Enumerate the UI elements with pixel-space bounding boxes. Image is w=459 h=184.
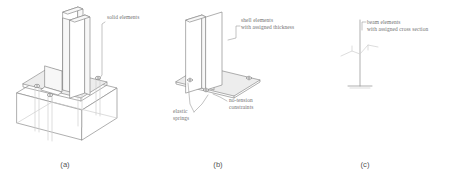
fixed-base-support bbox=[348, 86, 372, 88]
shell-flange-near bbox=[206, 12, 222, 90]
annotation-elastic-springs: elastic springs bbox=[173, 108, 189, 122]
cross-section-glyph bbox=[341, 45, 378, 56]
annotation-solid-elements: solid elements bbox=[107, 14, 139, 21]
beam-elements-leader bbox=[362, 22, 366, 30]
anchor-bolt bbox=[47, 93, 52, 96]
annotation-shell-elements: shell elements with assigned thickness bbox=[241, 17, 294, 31]
caption-b: (b) bbox=[198, 160, 238, 169]
figure-three-modelling-approaches: solid elements (a) bbox=[0, 0, 459, 184]
caption-c: (c) bbox=[345, 160, 385, 169]
panel-a-solid-elements: solid elements (a) bbox=[0, 0, 160, 184]
shell-web bbox=[202, 15, 206, 90]
solid-elements-leader bbox=[99, 22, 105, 79]
panel-a-drawing bbox=[0, 0, 160, 184]
annotation-beam-elements: beam elements with assigned cross sectio… bbox=[367, 19, 428, 33]
anchor-bolt bbox=[34, 84, 39, 87]
annotation-no-tension-constraints: no-tension constraints bbox=[229, 97, 253, 111]
panel-c-beam-elements: beam elements with assigned cross sectio… bbox=[300, 0, 459, 184]
column-solid bbox=[63, 7, 90, 98]
shell-elements-leader bbox=[228, 26, 240, 40]
panel-b-shell-elements: shell elements with assigned thickness n… bbox=[150, 0, 310, 184]
no-tension-leader bbox=[213, 94, 227, 101]
caption-a: (a) bbox=[45, 160, 85, 169]
elastic-springs-leader-1 bbox=[194, 95, 208, 112]
